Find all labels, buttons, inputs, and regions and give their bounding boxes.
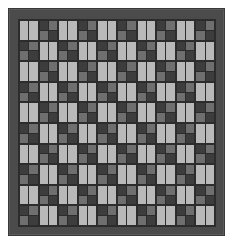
light-stripe — [138, 103, 146, 122]
light-stripe — [177, 103, 185, 122]
dark-square — [177, 42, 185, 51]
dark-square — [147, 175, 155, 184]
mid-square — [138, 51, 146, 60]
checker-block — [195, 102, 215, 123]
light-pair-block — [195, 123, 215, 144]
dark-square — [166, 196, 174, 205]
dark-square — [127, 154, 135, 163]
light-pair-block — [39, 164, 59, 185]
light-pair-block — [156, 123, 176, 144]
light-pair-block — [19, 144, 39, 165]
light-stripe — [98, 145, 106, 164]
dark-square — [196, 186, 204, 195]
light-pair-block — [137, 144, 157, 165]
mid-square — [118, 113, 126, 122]
mid-square — [166, 145, 174, 154]
light-stripe — [157, 124, 165, 143]
dark-square — [20, 83, 28, 92]
light-stripe — [196, 206, 204, 225]
mid-square — [68, 83, 76, 92]
light-stripe — [88, 83, 96, 102]
light-stripe — [59, 103, 67, 122]
dark-square — [20, 42, 28, 51]
light-stripe — [206, 206, 214, 225]
checker-block — [137, 164, 157, 185]
light-pair-block — [176, 144, 196, 165]
dark-square — [98, 206, 106, 215]
light-stripe — [20, 21, 28, 40]
mid-square — [118, 196, 126, 205]
mid-square — [196, 113, 204, 122]
checker-block — [176, 123, 196, 144]
light-pair-block — [97, 102, 117, 123]
light-stripe — [49, 124, 57, 143]
mid-square — [206, 145, 214, 154]
light-stripe — [49, 165, 57, 184]
light-stripe — [40, 83, 48, 102]
mid-square — [166, 186, 174, 195]
light-stripe — [166, 124, 174, 143]
light-pair-block — [117, 164, 137, 185]
dark-square — [59, 206, 67, 215]
checker-block — [176, 41, 196, 62]
checker-block — [117, 20, 137, 41]
dark-square — [127, 31, 135, 40]
mid-square — [88, 21, 96, 30]
checker-block — [97, 164, 117, 185]
light-stripe — [88, 42, 96, 61]
dark-square — [49, 31, 57, 40]
dark-square — [147, 51, 155, 60]
checker-block — [97, 205, 117, 226]
light-stripe — [138, 186, 146, 205]
checker-block — [97, 82, 117, 103]
dark-square — [68, 93, 76, 102]
dark-square — [177, 124, 185, 133]
light-stripe — [108, 62, 116, 81]
dark-square — [118, 186, 126, 195]
light-stripe — [127, 83, 135, 102]
dark-square — [49, 113, 57, 122]
mid-square — [29, 42, 37, 51]
mid-square — [206, 103, 214, 112]
dark-square — [40, 103, 48, 112]
mid-square — [88, 186, 96, 195]
light-stripe — [118, 206, 126, 225]
mid-square — [49, 103, 57, 112]
light-stripe — [59, 62, 67, 81]
light-pair-block — [78, 41, 98, 62]
checker-block — [39, 102, 59, 123]
dark-square — [108, 51, 116, 60]
dark-square — [206, 196, 214, 205]
mid-square — [177, 93, 185, 102]
mid-square — [147, 124, 155, 133]
mid-square — [186, 206, 194, 215]
light-pair-block — [19, 20, 39, 41]
checker-block — [195, 144, 215, 165]
dark-square — [206, 72, 214, 81]
light-stripe — [59, 21, 67, 40]
mid-square — [138, 216, 146, 225]
checker-block — [39, 61, 59, 82]
mid-square — [127, 62, 135, 71]
checker-block — [39, 20, 59, 41]
dark-square — [147, 134, 155, 143]
light-stripe — [98, 62, 106, 81]
mid-square — [186, 83, 194, 92]
checker-block — [19, 41, 39, 62]
dark-square — [186, 175, 194, 184]
dark-square — [88, 113, 96, 122]
mid-square — [127, 186, 135, 195]
checker-block — [78, 61, 98, 82]
light-stripe — [68, 21, 76, 40]
light-stripe — [108, 145, 116, 164]
light-stripe — [206, 42, 214, 61]
light-pair-block — [97, 144, 117, 165]
checker-block — [97, 41, 117, 62]
light-stripe — [118, 124, 126, 143]
checker-block — [156, 185, 176, 206]
light-stripe — [29, 21, 37, 40]
light-stripe — [79, 165, 87, 184]
dark-square — [157, 186, 165, 195]
dark-square — [186, 216, 194, 225]
light-pair-block — [137, 185, 157, 206]
